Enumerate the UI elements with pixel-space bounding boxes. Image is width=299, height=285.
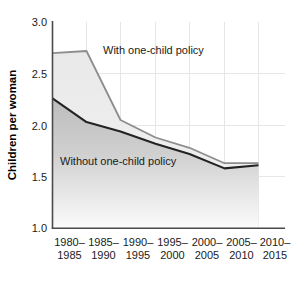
- y-tick-label-3.0: 3.0: [32, 16, 47, 28]
- x-tick-label-5-line1: 2005–: [226, 236, 257, 248]
- y-tick-label-2.5: 2.5: [32, 68, 47, 80]
- x-tick-label-0-line2: 1985: [57, 249, 81, 261]
- x-tick-label-4-line2: 2005: [195, 249, 219, 261]
- fertility-area-chart: 3.0 2.5 2.0 1.5 1.0 Children per woman 1…: [0, 0, 299, 285]
- x-tick-label-6-line1: 2010–: [260, 236, 291, 248]
- annotation-with-one-child-policy: With one-child policy: [103, 44, 204, 56]
- x-tick-label-0-line1: 1980–: [54, 236, 85, 248]
- x-tick-label-6-line2: 2015: [263, 249, 287, 261]
- x-tick-label-4-line1: 2000–: [192, 236, 223, 248]
- y-axis-title: Children per woman: [6, 70, 18, 181]
- annotation-without-one-child-policy: Without one-child policy: [60, 155, 177, 167]
- x-tick-label-5-line2: 2010: [229, 249, 253, 261]
- x-tick-label-3-line2: 2000: [160, 249, 184, 261]
- y-tick-label-1.0: 1.0: [32, 222, 47, 234]
- x-tick-label-2-line1: 1990–: [123, 236, 154, 248]
- y-tick-label-2.0: 2.0: [32, 120, 47, 132]
- x-tick-label-2-line2: 1995: [126, 249, 150, 261]
- chart-container: 3.0 2.5 2.0 1.5 1.0 Children per woman 1…: [0, 0, 299, 285]
- x-tick-label-3-line1: 1995–: [157, 236, 188, 248]
- x-tick-label-1-line2: 1990: [91, 249, 115, 261]
- x-tick-label-1-line1: 1985–: [88, 236, 119, 248]
- y-tick-label-1.5: 1.5: [32, 171, 47, 183]
